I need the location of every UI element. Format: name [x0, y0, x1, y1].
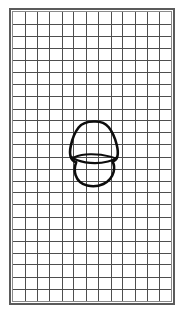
grid-lines-svg: [13, 12, 171, 301]
grid-frame: [9, 8, 175, 305]
grid-surface: [13, 12, 171, 301]
page-root: [0, 0, 189, 324]
grid-frame-inner: [12, 11, 172, 302]
grid-vertical-lines: [25, 12, 160, 301]
